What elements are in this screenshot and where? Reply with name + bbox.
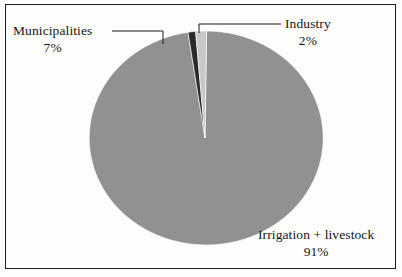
- slice-label-municipalities-value: 7%: [13, 39, 92, 56]
- slice-label-industry: Industry 2%: [285, 15, 331, 49]
- pie-chart-figure: Municipalities 7% Industry 2% Irrigation…: [0, 0, 402, 277]
- slice-label-irrigation-livestock-value: 91%: [258, 243, 374, 260]
- slice-label-municipalities-name: Municipalities: [13, 23, 92, 38]
- slice-label-industry-value: 2%: [285, 32, 331, 49]
- slice-label-industry-name: Industry: [285, 16, 331, 31]
- slice-label-irrigation-livestock: Irrigation + livestock 91%: [258, 226, 374, 260]
- slice-label-municipalities: Municipalities 7%: [13, 22, 92, 56]
- slice-label-irrigation-livestock-name: Irrigation + livestock: [258, 227, 374, 242]
